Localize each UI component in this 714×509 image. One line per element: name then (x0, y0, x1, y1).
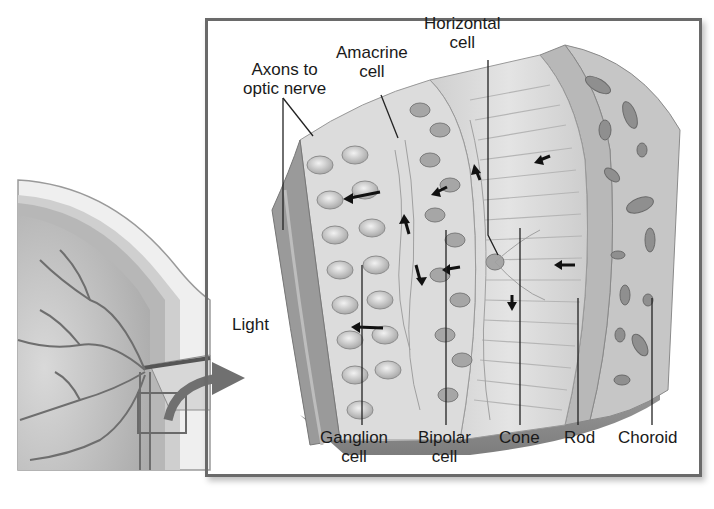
label-line: cell (418, 447, 471, 466)
label-horizontal-cell: Horizontal cell (424, 14, 501, 52)
eyeball-illustration (18, 180, 245, 470)
label-line: Axons to (243, 60, 326, 79)
label-bipolar-cell: Bipolar cell (418, 428, 471, 466)
label-amacrine-cell: Amacrine cell (336, 43, 408, 81)
label-line: cell (320, 447, 388, 466)
retina-diagram: Axons to optic nerve Amacrine cell Horiz… (0, 0, 714, 509)
label-ganglion-cell: Ganglion cell (320, 428, 388, 466)
label-rod: Rod (564, 428, 595, 447)
label-line: cell (336, 62, 408, 81)
label-light: Light (232, 315, 269, 334)
label-axons-to-optic-nerve: Axons to optic nerve (243, 60, 326, 98)
label-line: optic nerve (243, 79, 326, 98)
label-choroid: Choroid (618, 428, 678, 447)
retina-block-illustration (272, 45, 680, 455)
label-line: cell (424, 33, 501, 52)
label-line: Amacrine (336, 43, 408, 62)
label-line: Ganglion (320, 428, 388, 447)
label-line: Bipolar (418, 428, 471, 447)
label-line: Horizontal (424, 14, 501, 33)
label-cone: Cone (499, 428, 540, 447)
